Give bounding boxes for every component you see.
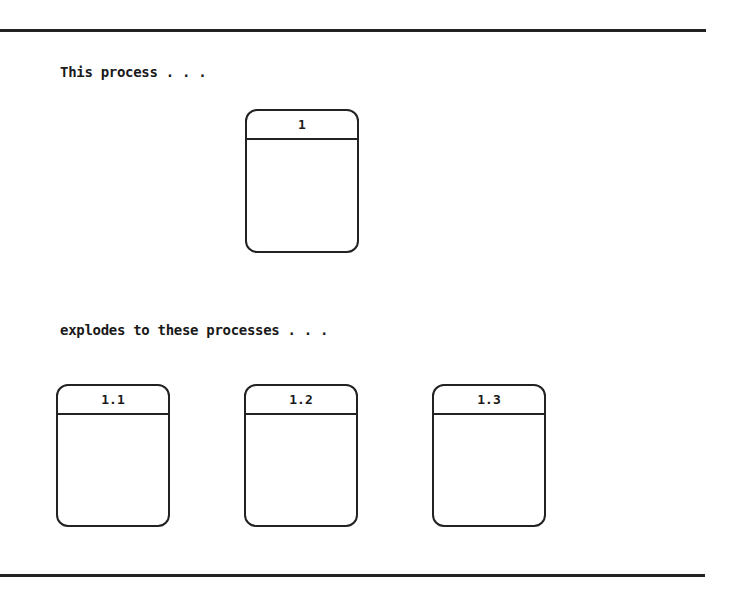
top-rule (0, 29, 706, 32)
process-box-1-1: 1.1 (56, 384, 170, 527)
process-box-1-3: 1.3 (432, 384, 546, 527)
process-id-label: 1 (247, 111, 357, 140)
process-id-label: 1.3 (434, 386, 544, 415)
bottom-rule (0, 574, 705, 577)
process-id-label: 1.2 (246, 386, 356, 415)
process-box-1-2: 1.2 (244, 384, 358, 527)
caption-explodes: explodes to these processes . . . (60, 322, 328, 338)
process-box-1: 1 (245, 109, 359, 253)
caption-this-process: This process . . . (60, 64, 206, 80)
process-id-label: 1.1 (58, 386, 168, 415)
